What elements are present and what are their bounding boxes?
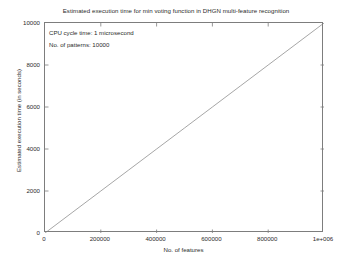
x-tick-label: 200000: [90, 235, 110, 242]
annotation-cpu-cycle-time: CPU cycle time: 1 microsecond: [49, 27, 134, 39]
chart-figure: Estimated execution time for min voting …: [0, 0, 352, 263]
x-tick-label: 600000: [201, 235, 221, 242]
y-tick-label: 4000: [26, 145, 40, 152]
y-tick-label: 10000: [23, 19, 40, 26]
x-tick-label: 800000: [257, 235, 277, 242]
y-tick-label: 6000: [26, 103, 40, 110]
x-tick-label: 0: [42, 235, 45, 242]
y-tick-label: 0: [37, 229, 40, 236]
annotation-text-block: CPU cycle time: 1 microsecond No. of pat…: [49, 27, 134, 50]
y-tick-label: 8000: [26, 61, 40, 68]
y-tick-label: 2000: [26, 187, 40, 194]
plot-svg: [45, 23, 324, 233]
annotation-no-of-patterns: No. of patterns: 10000: [49, 39, 134, 51]
x-tick-label: 400000: [145, 235, 165, 242]
data-series-line-0: [45, 23, 324, 233]
chart-title: Estimated execution time for min voting …: [0, 7, 352, 15]
x-axis-label: No. of features: [44, 246, 323, 253]
y-axis-label: Estimated execution time (in seconds): [15, 21, 22, 221]
x-tick-label: 1e+006: [313, 235, 334, 242]
plot-area: CPU cycle time: 1 microsecond No. of pat…: [44, 22, 323, 232]
data-series-group: [45, 23, 324, 233]
